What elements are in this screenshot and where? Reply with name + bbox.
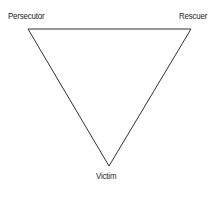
triangle-shape xyxy=(28,29,191,166)
rescuer-label: Rescuer xyxy=(179,11,207,21)
drama-triangle xyxy=(0,0,211,198)
persecutor-label: Persecutor xyxy=(8,11,45,21)
victim-label: Victim xyxy=(96,171,116,181)
